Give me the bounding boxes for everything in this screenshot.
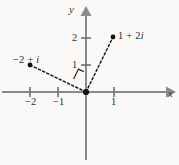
imaginary-unit-icon-1: i (141, 30, 144, 41)
point-label-1-plus-2i-prefix: 1 + 2 (118, 30, 141, 41)
y-axis-label: y (69, 4, 74, 15)
y-tick-label-1: 1 (72, 60, 77, 71)
plot-canvas (0, 0, 179, 165)
x-tick-label--1: −1 (53, 97, 65, 108)
y-axis-arrowhead (81, 6, 92, 16)
y-tick-label-2: 2 (72, 33, 77, 44)
x-tick-label-1: 1 (111, 97, 116, 108)
origin-point (83, 89, 89, 95)
complex-plane-figure: y x −2 −1 1 1 2 1 + 2i −2 + i (0, 0, 179, 165)
x-tick-label--2: −2 (25, 97, 37, 108)
point-label-minus2-plus-i: −2 + i (13, 55, 39, 66)
right-angle-marker (74, 69, 84, 79)
imaginary-unit-icon-2: i (36, 54, 39, 65)
data-point-1-plus-2i (111, 35, 116, 40)
x-axis-label: x (168, 88, 173, 99)
point-label-1-plus-2i: 1 + 2i (118, 31, 144, 42)
point-label-minus2-plus-i-prefix: −2 + (13, 54, 36, 65)
